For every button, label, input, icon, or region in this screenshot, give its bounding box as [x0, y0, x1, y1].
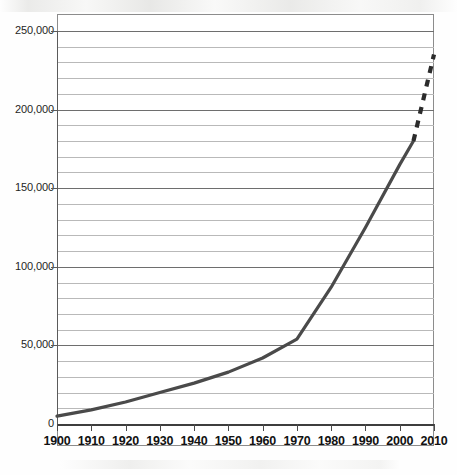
scan-artifact-top	[0, 0, 457, 12]
scan-artifact-bottom	[60, 460, 400, 469]
gridline-minor	[57, 408, 434, 409]
gridline-minor	[57, 141, 434, 142]
gridline-minor	[57, 361, 434, 362]
gridline-minor	[57, 172, 434, 173]
y-axis-tick-mark	[51, 267, 57, 268]
y-axis-tick-mark	[51, 188, 57, 189]
gridline-minor	[57, 94, 434, 95]
gridline-major	[57, 188, 434, 189]
x-axis-tick-label: 2010	[411, 434, 457, 448]
gridline-minor	[57, 157, 434, 158]
gridline-minor	[57, 204, 434, 205]
y-axis-tick-label: 150,000	[15, 182, 54, 193]
gridline-minor	[57, 62, 434, 63]
chart-figure: 050,000100,000150,000200,000250,000 1900…	[0, 0, 457, 475]
gridline-minor	[57, 283, 434, 284]
x-axis-line	[57, 424, 435, 426]
y-axis-tick-label: 100,000	[15, 261, 54, 272]
gridline-minor	[57, 78, 434, 79]
y-axis-tick-mark	[51, 110, 57, 111]
x-axis-tick-mark	[57, 424, 58, 431]
x-axis-tick-mark	[400, 424, 401, 431]
y-axis-tick-label: 200,000	[15, 104, 54, 115]
y-axis-line	[57, 31, 58, 424]
y-axis-tick-mark	[51, 345, 57, 346]
gridline-layer	[57, 31, 434, 424]
y-axis-tick-label: 50,000	[21, 339, 54, 350]
gridline-minor	[57, 125, 434, 126]
x-axis-tick-mark	[331, 424, 332, 431]
gridline-minor	[57, 235, 434, 236]
x-axis-tick-mark	[160, 424, 161, 431]
gridline-minor	[57, 220, 434, 221]
y-axis-tick-label: 250,000	[15, 25, 54, 36]
y-axis-tick-mark	[51, 31, 57, 32]
y-axis-labels: 050,000100,000150,000200,000250,000	[0, 0, 54, 475]
gridline-minor	[57, 251, 434, 252]
gridline-major	[57, 110, 434, 111]
gridline-major	[57, 31, 434, 32]
x-axis-tick-mark	[297, 424, 298, 431]
gridline-minor	[57, 330, 434, 331]
gridline-minor	[57, 393, 434, 394]
gridline-minor	[57, 314, 434, 315]
gridline-minor	[57, 377, 434, 378]
x-axis-tick-mark	[263, 424, 264, 431]
y-axis-tick-label: 0	[48, 418, 54, 429]
gridline-minor	[57, 47, 434, 48]
x-axis-tick-mark	[91, 424, 92, 431]
x-axis-tick-mark	[194, 424, 195, 431]
x-axis-tick-mark	[434, 424, 435, 431]
x-axis-tick-mark	[365, 424, 366, 431]
x-axis-tick-mark	[126, 424, 127, 431]
gridline-major	[57, 267, 434, 268]
x-axis-tick-mark	[228, 424, 229, 431]
gridline-major	[57, 345, 434, 346]
gridline-minor	[57, 298, 434, 299]
